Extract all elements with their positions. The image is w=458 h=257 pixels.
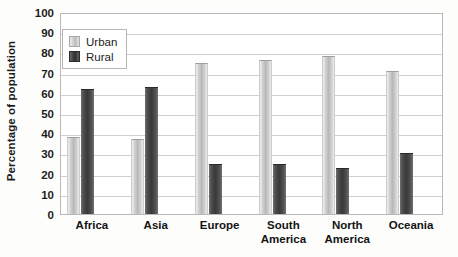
legend-label: Rural xyxy=(86,51,113,63)
bar-group xyxy=(125,14,189,214)
y-axis-tick-label: 90 xyxy=(41,27,54,39)
y-axis-tick-label: 0 xyxy=(48,209,54,221)
bar-rural-asia xyxy=(145,87,158,214)
bar-group xyxy=(316,14,380,214)
y-axis-tick-labels: 1009080706050403020100 xyxy=(22,8,58,214)
y-axis-tick-label: 10 xyxy=(41,189,54,201)
bar-urban-asia xyxy=(131,139,144,214)
y-axis-tick-label: 20 xyxy=(41,169,54,181)
x-axis-tick-label: Europe xyxy=(200,219,240,233)
bar-rural-north-america xyxy=(336,168,349,214)
bar-urban-europe xyxy=(195,63,208,215)
chart-legend: UrbanRural xyxy=(62,29,127,69)
bar-group xyxy=(380,14,444,214)
bar-rural-africa xyxy=(81,89,94,214)
bar-rural-oceania xyxy=(400,153,413,214)
bar-chart: Percentage of population 100908070605040… xyxy=(0,0,458,257)
x-axis-tick-label: Asia xyxy=(144,219,168,233)
legend-swatch-urban xyxy=(69,36,80,47)
x-axis-tick-label: North America xyxy=(325,219,370,246)
bar-urban-oceania xyxy=(386,71,399,214)
bar-urban-africa xyxy=(67,137,80,214)
y-axis-title: Percentage of population xyxy=(0,0,22,222)
legend-item-urban: Urban xyxy=(69,34,117,49)
bar-group xyxy=(253,14,317,214)
y-axis-tick-label: 80 xyxy=(41,47,54,59)
y-axis-tick-label: 70 xyxy=(41,68,54,80)
y-axis-tick-label: 50 xyxy=(41,108,54,120)
bar-urban-south-america xyxy=(259,60,272,214)
y-axis-title-text: Percentage of population xyxy=(5,41,17,181)
legend-swatch-rural xyxy=(69,51,80,62)
x-axis-tick-label: South America xyxy=(261,219,306,246)
legend-label: Urban xyxy=(86,36,117,48)
legend-item-rural: Rural xyxy=(69,49,117,64)
bar-rural-south-america xyxy=(273,164,286,215)
bar-urban-north-america xyxy=(322,56,335,214)
y-axis-tick-label: 30 xyxy=(41,148,54,160)
x-axis-tick-label: Oceania xyxy=(389,219,434,233)
y-axis-tick-label: 40 xyxy=(41,128,54,140)
bar-group xyxy=(189,14,253,214)
y-axis-tick-label: 60 xyxy=(41,88,54,100)
x-axis-tick-labels: AfricaAsiaEuropeSouth AmericaNorth Ameri… xyxy=(60,219,443,257)
y-axis-tick-label: 100 xyxy=(35,7,54,19)
x-axis-tick-label: Africa xyxy=(76,219,109,233)
bar-rural-europe xyxy=(209,164,222,215)
